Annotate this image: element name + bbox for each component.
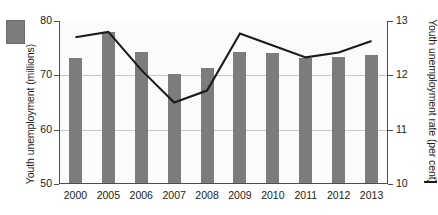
left-axis-tick: [54, 21, 59, 22]
bar: [201, 68, 214, 183]
bar: [102, 32, 115, 183]
right-axis-tick: [388, 21, 393, 22]
right-axis-tick: [388, 130, 393, 131]
right-axis-tick-label: 10: [396, 177, 408, 189]
x-axis-tick-label: 2000: [64, 189, 87, 201]
x-axis-tick-label: 2006: [130, 189, 153, 201]
right-axis-title: Youth unemployment rate (per cent): [427, 11, 438, 191]
left-axis-spine: [59, 21, 60, 184]
right-axis-tick: [388, 75, 393, 76]
left-axis-tick-label: 80: [40, 14, 52, 26]
plot-area: 50607080 10111213 2000200520062007200820…: [59, 21, 388, 184]
bar: [299, 58, 312, 183]
bar: [69, 58, 82, 183]
bar: [332, 57, 345, 183]
left-axis-tick-label: 70: [40, 68, 52, 80]
chart-container: Youth unemployment (millions) Youth unem…: [0, 0, 438, 215]
bottom-axis-spine: [59, 183, 388, 184]
bar: [135, 52, 148, 183]
bar: [266, 53, 279, 183]
bar: [233, 52, 246, 183]
x-axis-tick-label: 2005: [97, 189, 120, 201]
right-axis-tick-label: 11: [396, 123, 407, 135]
right-axis-tick: [388, 184, 393, 185]
line-series-path: [75, 32, 371, 103]
x-axis-tick-label: 2010: [261, 189, 284, 201]
left-axis-tick: [54, 75, 59, 76]
bar: [365, 55, 378, 183]
left-axis-tick-label: 50: [40, 177, 52, 189]
left-axis-tick: [54, 130, 59, 131]
right-axis-spine: [387, 21, 388, 184]
right-axis-tick-label: 12: [396, 68, 408, 80]
x-axis-tick-label: 2012: [327, 189, 350, 201]
x-axis-tick-label: 2009: [228, 189, 251, 201]
left-axis-tick-label: 60: [40, 123, 52, 135]
x-axis-tick-label: 2007: [162, 189, 185, 201]
right-axis-tick-label: 13: [396, 14, 408, 26]
line-series-legend-mark: [424, 181, 437, 183]
bar-series-legend-swatch: [6, 20, 25, 44]
x-axis-tick-label: 2008: [195, 189, 218, 201]
left-axis-tick: [54, 184, 59, 185]
bar: [168, 74, 181, 183]
left-axis-title: Youth unemployment (millions): [24, 34, 36, 194]
x-axis-tick-label: 2013: [360, 189, 383, 201]
x-axis-tick-label: 2011: [294, 189, 317, 201]
